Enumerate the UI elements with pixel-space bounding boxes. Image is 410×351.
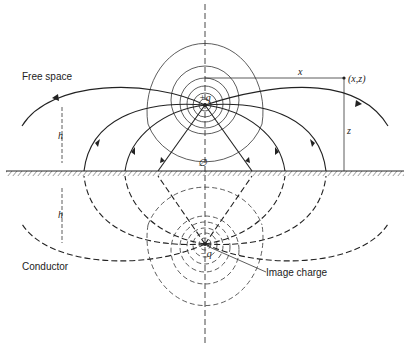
- point-label: (x,z): [348, 73, 366, 85]
- origin-label: ∅: [198, 157, 208, 168]
- positive-charge-label: +q: [199, 92, 211, 103]
- positive-charge-dot: [203, 103, 207, 107]
- h-lower-label: h: [58, 209, 63, 220]
- negative-charge-label: −q: [200, 248, 212, 259]
- free-space-label: Free space: [22, 71, 72, 82]
- conductor-label: Conductor: [22, 261, 69, 272]
- h-upper-label: h: [58, 130, 63, 141]
- image-charge-diagram: +q −q ∅ (x,z) x z h h Free space Conduct…: [0, 0, 410, 351]
- image-charge-label: Image charge: [266, 267, 328, 278]
- x-dimension-label: x: [297, 66, 303, 77]
- z-dimension-label: z: [346, 125, 351, 136]
- diagram-canvas: +q −q ∅ (x,z) x z h h Free space Conduct…: [0, 0, 410, 351]
- coordinate-marker: [205, 76, 346, 171]
- negative-charge-dot: [203, 242, 207, 246]
